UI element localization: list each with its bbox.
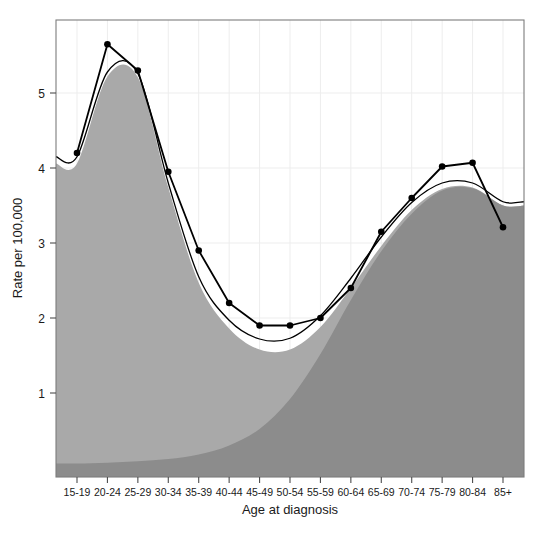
y-axis: 12345 (38, 87, 56, 401)
x-tick-label: 65-69 (368, 486, 395, 498)
y-tick-label: 4 (38, 162, 45, 176)
x-axis-title: Age at diagnosis (242, 502, 339, 517)
data-point (408, 195, 415, 202)
data-point (195, 247, 202, 254)
rate-by-age-chart: 12345 15-1920-2425-2930-3435-3940-4445-4… (0, 0, 544, 540)
y-tick-label: 1 (38, 387, 45, 401)
x-tick-label: 15-19 (64, 486, 91, 498)
x-tick-label: 70-74 (398, 486, 425, 498)
x-tick-label: 20-24 (94, 486, 121, 498)
y-axis-title: Rate per 100,000 (10, 198, 25, 298)
chart-figure: 12345 15-1920-2425-2930-3435-3940-4445-4… (0, 0, 544, 540)
clipped-header-text (0, 0, 544, 12)
data-point (165, 168, 172, 175)
x-tick-label: 50-54 (277, 486, 304, 498)
x-tick-label: 60-64 (337, 486, 364, 498)
x-tick-label: 25-29 (124, 486, 151, 498)
data-point (378, 228, 385, 235)
data-point (74, 150, 81, 157)
x-tick-label: 55-59 (307, 486, 334, 498)
x-tick-label: 85+ (494, 486, 512, 498)
x-axis: 15-1920-2425-2930-3435-3940-4445-4950-54… (64, 477, 512, 498)
x-tick-label: 40-44 (216, 486, 243, 498)
data-point (317, 315, 324, 322)
y-tick-label: 2 (38, 312, 45, 326)
data-point (104, 41, 111, 48)
data-point (287, 322, 294, 329)
data-point (256, 322, 263, 329)
data-point (226, 300, 233, 307)
data-point (135, 67, 142, 74)
data-point (469, 159, 476, 166)
y-tick-label: 3 (38, 237, 45, 251)
x-tick-label: 75-79 (429, 486, 456, 498)
x-tick-label: 80-84 (459, 486, 486, 498)
x-tick-label: 30-34 (155, 486, 182, 498)
data-point (500, 224, 507, 231)
y-tick-label: 5 (38, 87, 45, 101)
x-tick-label: 45-49 (246, 486, 273, 498)
data-point (439, 163, 446, 170)
data-point (348, 285, 355, 292)
x-tick-label: 35-39 (185, 486, 212, 498)
